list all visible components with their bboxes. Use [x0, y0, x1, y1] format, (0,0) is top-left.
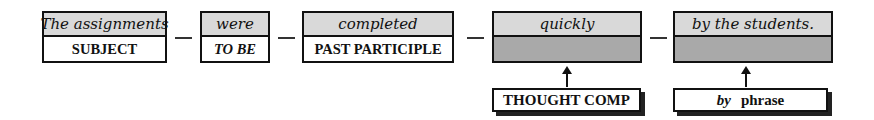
sentence-box-quickly: quickly	[492, 11, 642, 63]
label-phrase-text: phrase	[741, 92, 784, 109]
role-empty-slot	[675, 37, 831, 61]
word-the-assignments: The assignments	[44, 13, 165, 37]
connector-dash	[650, 37, 667, 39]
word-by-the-students: by the students.	[675, 13, 831, 37]
word-completed: completed	[304, 13, 452, 37]
word-quickly: quickly	[494, 13, 640, 37]
label-thought-comp-text: THOUGHT COMP	[503, 92, 630, 109]
word-were: were	[202, 13, 268, 37]
role-subject: SUBJECT	[44, 37, 165, 61]
label-by-phrase: by phrase	[673, 88, 828, 112]
role-empty-slot	[494, 37, 640, 61]
connector-dash	[278, 37, 295, 39]
arrow-up-icon	[566, 68, 568, 87]
role-to-be: TO BE	[202, 37, 268, 61]
connector-dash	[467, 37, 484, 39]
arrow-up-icon	[745, 68, 747, 87]
sentence-box-by-the-students: by the students.	[673, 11, 833, 63]
sentence-box-past-participle: completed PAST PARTICIPLE	[302, 11, 454, 63]
label-by-prefix: by	[717, 92, 731, 109]
label-thought-comp: THOUGHT COMP	[492, 88, 641, 112]
sentence-box-to-be: were TO BE	[200, 11, 270, 63]
role-past-participle: PAST PARTICIPLE	[304, 37, 452, 61]
connector-dash	[175, 37, 192, 39]
sentence-box-subject: The assignments SUBJECT	[42, 11, 167, 63]
